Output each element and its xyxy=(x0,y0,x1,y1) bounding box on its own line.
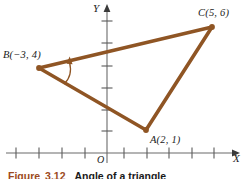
vertex-point-a xyxy=(143,127,149,133)
x-axis-label: X xyxy=(233,152,240,164)
angle-arc-path xyxy=(64,62,70,84)
figure-container: Y X O B(−3, 4) C(5, 6) A(2, 1) Figure3.1… xyxy=(0,0,244,179)
triangle-side-ab xyxy=(39,68,146,130)
y-axis-label: Y xyxy=(93,2,99,14)
vertex-label-b: B(−3, 4) xyxy=(3,49,41,60)
caption-figure-number: 3.12 xyxy=(45,170,65,179)
origin-label: O xyxy=(97,154,104,165)
triangle-abc xyxy=(36,24,215,133)
vertex-point-b xyxy=(36,65,42,71)
figure-caption: Figure3.12Angle of a triangle xyxy=(8,170,244,179)
y-axis-arrowhead xyxy=(104,4,111,12)
vertex-label-c: C(5, 6) xyxy=(198,7,229,18)
vertex-label-a: A(2, 1) xyxy=(150,134,181,145)
caption-figure-word: Figure xyxy=(8,170,40,179)
caption-title: Angle of a triangle xyxy=(75,170,167,179)
x-axis xyxy=(6,148,240,159)
triangle-side-ca xyxy=(146,27,212,130)
y-axis xyxy=(102,4,113,163)
vertex-point-c xyxy=(209,24,215,30)
coordinate-plot xyxy=(0,0,244,179)
triangle-side-bc xyxy=(39,27,212,68)
